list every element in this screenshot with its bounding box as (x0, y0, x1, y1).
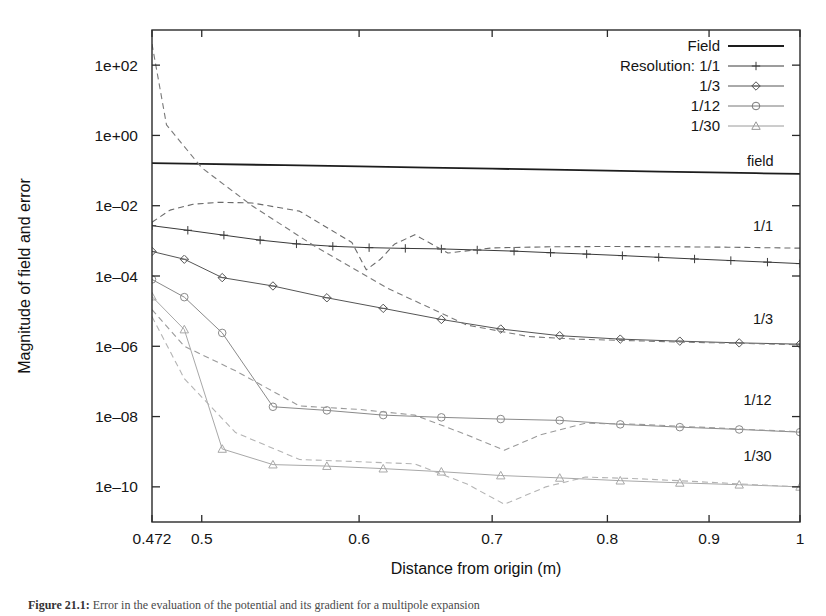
y-tick-label-0: 1e+02 (94, 57, 138, 74)
y-tick-label-6: 1e–10 (95, 478, 138, 495)
x-axis-title: Distance from origin (m) (391, 560, 562, 577)
x-tick-label-2: 0.6 (348, 530, 370, 547)
x-tick-label-0: 0.472 (133, 530, 172, 547)
chart-legend: FieldResolution: 1/11/31/121/30 (620, 37, 784, 134)
curve-label-field: field (747, 153, 774, 169)
x-tick-label-3: 0.7 (481, 530, 503, 547)
caption-text: Error in the evaluation of the potential… (93, 598, 480, 612)
figure-container: 0.4720.50.60.70.80.911e+021e+001e–021e–0… (0, 0, 826, 616)
axes-layer: 0.4720.50.60.70.80.911e+021e+001e–021e–0… (16, 30, 804, 577)
x-tick-label-6: 1 (796, 530, 805, 547)
curve-label-1-1: 1/1 (753, 218, 773, 234)
series-path-0 (152, 163, 800, 174)
y-tick-label-3: 1e–04 (95, 268, 138, 285)
x-tick-label-1: 0.5 (191, 530, 213, 547)
legend-label-3: 1/12 (691, 97, 720, 114)
y-tick-label-4: 1e–06 (95, 338, 138, 355)
y-tick-label-2: 1e–02 (95, 197, 138, 214)
legend-label-0: Field (687, 37, 720, 54)
legend-label-4: 1/30 (691, 117, 720, 134)
curve-label-1-30: 1/30 (743, 448, 771, 464)
series-path-8 (152, 317, 800, 505)
series-path-5 (152, 279, 800, 432)
x-tick-label-5: 0.9 (698, 530, 720, 547)
x-tick-label-4: 0.8 (597, 530, 619, 547)
curve-labels-layer: field1/11/31/121/30 (743, 153, 773, 464)
series-path-3 (152, 251, 800, 344)
series-path-6 (152, 310, 800, 451)
y-tick-label-5: 1e–08 (95, 408, 138, 425)
curve-label-1-3: 1/3 (753, 311, 773, 327)
log-log-chart: 0.4720.50.60.70.80.911e+021e+001e–021e–0… (0, 0, 826, 616)
y-tick-label-1: 1e+00 (94, 127, 138, 144)
y-axis-title: Magnitude of field and error (16, 177, 33, 373)
curve-label-1-12: 1/12 (743, 392, 771, 408)
legend-label-2: 1/3 (699, 77, 720, 94)
figure-caption: Figure 21.1: Error in the evaluation of … (28, 598, 818, 613)
caption-label: Figure 21.1: (28, 598, 90, 612)
legend-label-1: Resolution: 1/1 (620, 57, 720, 74)
series-path-1 (152, 226, 800, 264)
